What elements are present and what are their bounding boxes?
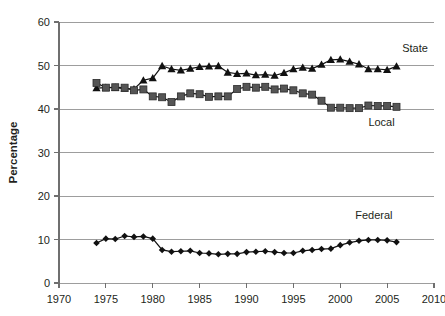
series-marker-federal-1997 [309, 247, 316, 254]
x-tick-label-2000: 2000 [328, 293, 352, 305]
series-marker-local-2003 [365, 102, 372, 109]
series-marker-federal-1975 [103, 235, 110, 242]
series-marker-federal-2000 [337, 242, 344, 249]
series-marker-local-1987 [215, 93, 222, 100]
series-marker-local-1998 [318, 97, 325, 104]
x-tick-label-2010: 2010 [422, 293, 445, 305]
series-marker-local-1988 [224, 93, 231, 100]
y-axis-title: Percentage [7, 121, 19, 183]
series-marker-local-1980 [149, 93, 156, 100]
y-tick-label-30: 30 [38, 147, 50, 159]
series-marker-local-1994 [281, 85, 288, 92]
series-marker-local-1993 [271, 86, 278, 93]
series-marker-federal-2004 [374, 237, 381, 244]
x-tick-label-2005: 2005 [375, 293, 399, 305]
series-marker-local-1996 [299, 90, 306, 97]
series-marker-local-2002 [356, 105, 363, 112]
series-marker-local-1985 [196, 91, 203, 98]
series-marker-local-1982 [168, 99, 175, 106]
x-tick-label-1985: 1985 [187, 293, 211, 305]
series-marker-local-1991 [252, 84, 259, 91]
series-marker-local-1995 [290, 87, 297, 94]
series-marker-federal-1982 [168, 248, 175, 255]
chart-container: 0102030405060197019751980198519901995200… [0, 0, 445, 316]
series-marker-federal-1998 [318, 246, 325, 253]
series-marker-federal-1976 [112, 236, 119, 243]
series-marker-local-1984 [187, 90, 194, 97]
series-marker-federal-2001 [346, 239, 353, 246]
series-marker-federal-1988 [224, 251, 231, 258]
series-marker-local-1989 [234, 85, 241, 92]
y-tick-label-60: 60 [38, 16, 50, 28]
x-tick-label-1970: 1970 [47, 293, 71, 305]
series-marker-federal-1990 [243, 249, 250, 256]
series-marker-federal-1986 [206, 250, 213, 257]
series-label-state: State [402, 42, 428, 54]
series-marker-local-2004 [374, 102, 381, 109]
series-marker-federal-1983 [178, 248, 185, 255]
series-marker-local-1997 [309, 91, 316, 98]
y-tick-label-0: 0 [44, 277, 50, 289]
series-marker-local-2000 [337, 104, 344, 111]
series-marker-federal-2003 [365, 237, 372, 244]
series-marker-local-1979 [140, 86, 147, 93]
series-marker-local-2005 [384, 102, 391, 109]
series-marker-federal-1992 [262, 248, 269, 255]
series-marker-state-1998 [317, 61, 325, 68]
y-tick-label-50: 50 [38, 60, 50, 72]
series-label-federal: Federal [355, 209, 392, 221]
series-marker-state-1996 [299, 64, 307, 71]
series-marker-local-1976 [112, 84, 119, 91]
series-marker-local-1992 [262, 83, 269, 90]
y-tick-label-20: 20 [38, 190, 50, 202]
percentage-by-government-level-line-chart: 0102030405060197019751980198519901995200… [0, 0, 445, 316]
series-marker-state-1994 [280, 69, 288, 76]
x-tick-label-1980: 1980 [141, 293, 165, 305]
series-label-local: Local [368, 116, 394, 128]
series-marker-federal-1985 [196, 250, 203, 257]
series-marker-local-2006 [393, 103, 400, 110]
series-marker-local-1986 [206, 93, 213, 100]
series-marker-federal-1996 [299, 248, 306, 255]
series-marker-local-1999 [327, 104, 334, 111]
series-marker-local-1974 [93, 79, 100, 86]
x-tick-label-1990: 1990 [234, 293, 258, 305]
series-marker-local-1975 [102, 84, 109, 91]
series-marker-local-1983 [177, 93, 184, 100]
y-tick-label-10: 10 [38, 234, 50, 246]
series-marker-federal-2002 [356, 238, 363, 245]
series-marker-local-1977 [121, 84, 128, 91]
series-marker-federal-1991 [253, 248, 260, 255]
series-marker-local-1978 [131, 87, 138, 94]
series-marker-federal-1974 [93, 240, 100, 247]
series-marker-state-1988 [224, 68, 232, 75]
series-marker-federal-1995 [290, 250, 297, 257]
series-marker-federal-1989 [234, 251, 241, 258]
series-marker-federal-1999 [328, 245, 335, 252]
x-tick-label-1995: 1995 [281, 293, 305, 305]
series-marker-federal-1993 [271, 249, 278, 256]
series-marker-federal-1987 [215, 251, 222, 258]
series-marker-local-1981 [159, 94, 166, 101]
series-marker-local-1990 [243, 83, 250, 90]
series-marker-federal-1984 [187, 248, 194, 255]
series-marker-federal-2005 [384, 237, 391, 244]
series-marker-local-2001 [346, 105, 353, 112]
series-marker-federal-1994 [281, 250, 288, 257]
x-tick-label-1975: 1975 [94, 293, 118, 305]
series-marker-federal-1977 [121, 233, 128, 240]
series-marker-federal-1979 [140, 233, 147, 240]
y-tick-label-40: 40 [38, 103, 50, 115]
